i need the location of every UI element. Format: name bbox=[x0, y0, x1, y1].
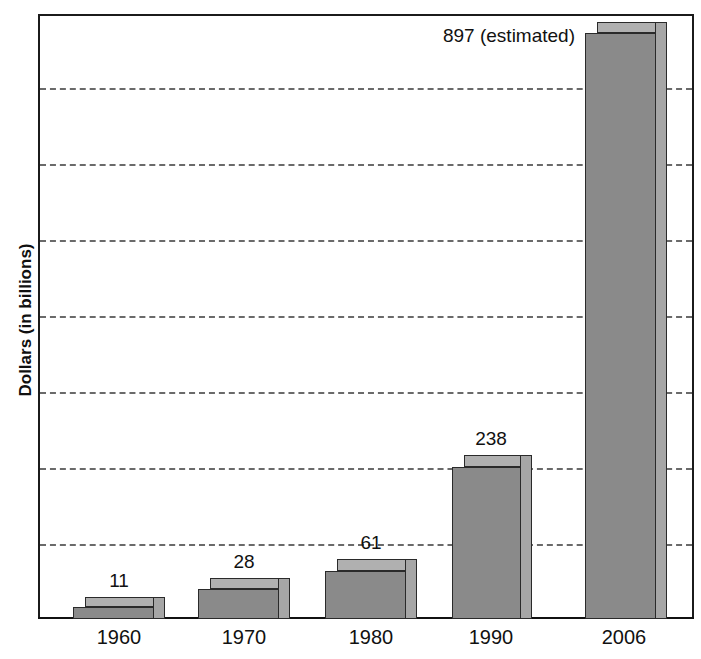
bar-1990-side-face bbox=[520, 455, 532, 619]
x-tick-label-1970: 1970 bbox=[198, 626, 290, 649]
bar-1970[interactable] bbox=[198, 578, 290, 619]
bar-1980[interactable] bbox=[325, 559, 417, 619]
bar-1960-front-face bbox=[73, 607, 154, 619]
bar-1970-side-face bbox=[278, 578, 290, 619]
bar-2006-front-face bbox=[585, 33, 656, 619]
bar-value-label-1990: 238 bbox=[450, 428, 532, 450]
bar-1970-front-face bbox=[198, 589, 279, 619]
bar-2006-side-face bbox=[655, 22, 667, 619]
bar-value-label-2006: 897 (estimated) bbox=[400, 25, 575, 47]
bar-1980-front-face bbox=[325, 571, 406, 619]
bar-value-label-1960: 11 bbox=[73, 570, 165, 592]
bar-value-label-1970: 28 bbox=[198, 551, 290, 573]
bar-1990-front-face bbox=[452, 467, 521, 619]
x-tick-label-1990: 1990 bbox=[450, 626, 532, 649]
x-tick-label-2006: 2006 bbox=[583, 626, 665, 649]
bar-2006[interactable] bbox=[585, 22, 667, 619]
bar-chart: Dollars (in billions) 11 28 61 238 bbox=[0, 0, 701, 659]
y-axis-label: Dollars (in billions) bbox=[16, 210, 36, 430]
bar-value-label-1980: 61 bbox=[325, 532, 417, 554]
bar-1990[interactable] bbox=[452, 455, 532, 619]
bar-1960-side-face bbox=[153, 597, 165, 619]
x-tick-label-1960: 1960 bbox=[73, 626, 165, 649]
bar-1980-side-face bbox=[405, 559, 417, 619]
bar-1960[interactable] bbox=[73, 597, 165, 619]
x-tick-label-1980: 1980 bbox=[325, 626, 417, 649]
